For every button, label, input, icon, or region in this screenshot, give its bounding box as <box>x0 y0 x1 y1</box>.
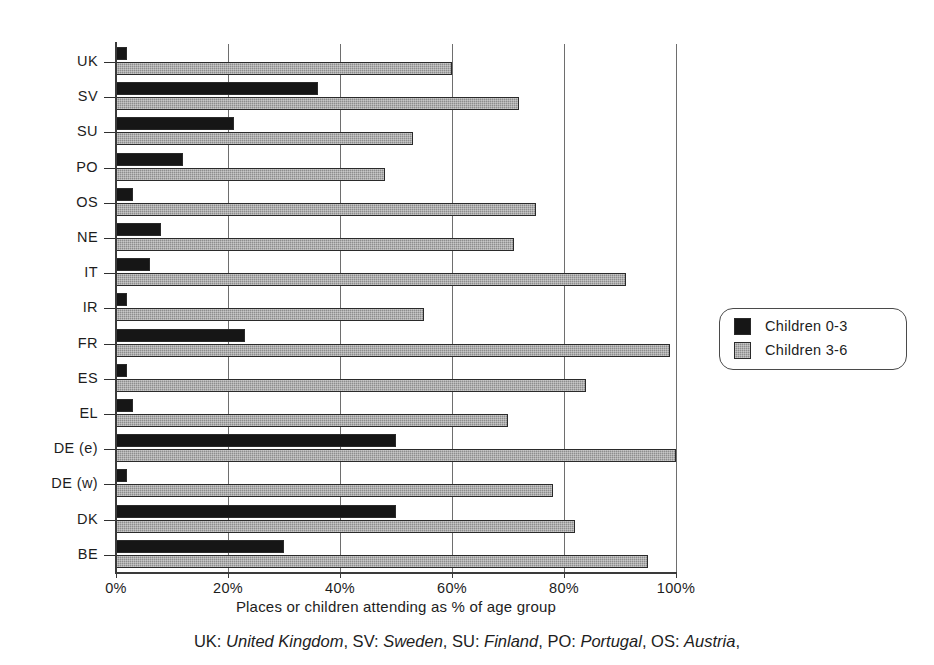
caption-text: , SU: <box>443 632 484 650</box>
bar-children-3-6 <box>116 344 670 357</box>
x-tick-label: 0% <box>76 580 156 596</box>
bar-row <box>116 399 676 434</box>
bar-children-0-3 <box>116 188 133 201</box>
bar-row <box>116 47 676 82</box>
bar-children-0-3 <box>116 153 183 166</box>
bar-children-3-6 <box>116 62 452 75</box>
figure-caption: UK: United Kingdom, SV: Sweden, SU: Finl… <box>0 632 934 651</box>
bar-row <box>116 540 676 575</box>
caption-text: , SV: <box>343 632 383 650</box>
plot-area: UKSVSUPOOSNEITIRFRESELDE (e)DE (w)DKBE <box>116 44 676 572</box>
x-tick-mark <box>676 572 677 578</box>
bar-row <box>116 188 676 223</box>
legend-label-children-3-6: Children 3-6 <box>765 342 848 358</box>
y-axis-line <box>115 42 117 574</box>
y-axis-category-label: SU <box>0 123 98 139</box>
x-tick-mark <box>116 572 117 578</box>
bar-children-0-3 <box>116 505 396 518</box>
bar-row <box>116 153 676 188</box>
y-axis-category-label: PO <box>0 159 98 175</box>
chart-legend: Children 0-3 Children 3-6 <box>719 308 907 370</box>
caption-country-name: Austria <box>684 632 735 650</box>
y-axis-category-label: ES <box>0 370 98 386</box>
bar-children-0-3 <box>116 329 245 342</box>
y-axis-category-label: BE <box>0 546 98 562</box>
x-tick-label: 80% <box>524 580 604 596</box>
y-axis-category-label: SV <box>0 88 98 104</box>
bar-children-3-6 <box>116 238 514 251</box>
y-axis-category-label: DK <box>0 511 98 527</box>
bar-children-0-3 <box>116 258 150 271</box>
caption-country-name: Finland <box>484 632 538 650</box>
caption-text: , PO: <box>538 632 580 650</box>
x-axis-title: Places or children attending as % of age… <box>116 598 676 615</box>
legend-item-children-3-6: Children 3-6 <box>734 340 848 360</box>
y-axis-category-label: IR <box>0 299 98 315</box>
bar-children-3-6 <box>116 203 536 216</box>
bar-children-0-3 <box>116 223 161 236</box>
bar-row <box>116 293 676 328</box>
caption-country-name: Portugal <box>580 632 641 650</box>
y-axis-category-label: UK <box>0 53 98 69</box>
bar-children-0-3 <box>116 47 127 60</box>
bar-row <box>116 223 676 258</box>
x-tick-mark <box>228 572 229 578</box>
bar-children-0-3 <box>116 540 284 553</box>
bar-row <box>116 505 676 540</box>
caption-text: , OS: <box>642 632 684 650</box>
legend-swatch-icon-children-3-6 <box>734 342 751 359</box>
caption-country-name: Sweden <box>383 632 443 650</box>
bar-row <box>116 364 676 399</box>
x-tick-label: 100% <box>636 580 716 596</box>
legend-label-children-0-3: Children 0-3 <box>765 318 848 334</box>
bar-children-0-3 <box>116 399 133 412</box>
legend-swatch-icon-children-0-3 <box>734 318 751 335</box>
caption-text: UK: <box>194 632 226 650</box>
y-axis-category-label: DE (w) <box>0 475 98 491</box>
y-axis-category-label: EL <box>0 405 98 421</box>
bar-row <box>116 434 676 469</box>
bar-row <box>116 82 676 117</box>
y-axis-category-label: DE (e) <box>0 440 98 456</box>
bar-children-3-6 <box>116 132 413 145</box>
y-axis-category-label: NE <box>0 229 98 245</box>
bar-children-3-6 <box>116 379 586 392</box>
bar-children-3-6 <box>116 168 385 181</box>
bar-children-0-3 <box>116 469 127 482</box>
bar-children-3-6 <box>116 520 575 533</box>
bar-row <box>116 329 676 364</box>
y-axis-category-label: OS <box>0 194 98 210</box>
bar-children-3-6 <box>116 97 519 110</box>
x-tick-mark <box>340 572 341 578</box>
x-tick-mark <box>452 572 453 578</box>
y-axis-category-label: IT <box>0 264 98 280</box>
caption-text: , <box>735 632 740 650</box>
bar-children-3-6 <box>116 414 508 427</box>
x-axis-line <box>115 572 677 574</box>
gridline-100pct <box>676 44 677 572</box>
bar-row <box>116 469 676 504</box>
bar-children-3-6 <box>116 484 553 497</box>
bar-row <box>116 258 676 293</box>
bar-children-0-3 <box>116 293 127 306</box>
bar-children-0-3 <box>116 434 396 447</box>
x-tick-label: 20% <box>188 580 268 596</box>
legend-item-children-0-3: Children 0-3 <box>734 316 848 336</box>
bar-row <box>116 117 676 152</box>
x-tick-label: 60% <box>412 580 492 596</box>
bar-children-3-6 <box>116 555 648 568</box>
y-axis-category-label: FR <box>0 335 98 351</box>
bar-children-3-6 <box>116 449 676 462</box>
bar-children-0-3 <box>116 82 318 95</box>
caption-country-name: United Kingdom <box>226 632 343 650</box>
x-tick-label: 40% <box>300 580 380 596</box>
bar-children-3-6 <box>116 308 424 321</box>
x-tick-mark <box>564 572 565 578</box>
bar-children-0-3 <box>116 117 234 130</box>
bar-chart-figure: UKSVSUPOOSNEITIRFRESELDE (e)DE (w)DKBE 0… <box>0 0 934 665</box>
bar-children-0-3 <box>116 364 127 377</box>
bar-children-3-6 <box>116 273 626 286</box>
